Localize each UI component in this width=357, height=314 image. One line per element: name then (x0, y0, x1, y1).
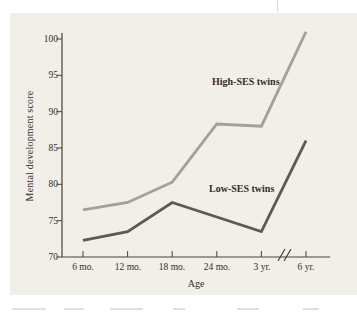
x-tick-label-18mo: 18 mo. (159, 262, 185, 273)
x-tick-label-3yr: 3 yr. (254, 262, 271, 273)
cropped-caption-fragment (10, 307, 350, 313)
x-tick-label-24mo: 24 mo. (204, 262, 230, 273)
y-tick-label-80: 80 (49, 179, 59, 190)
x-tick-label-12mo: 12 mo. (115, 262, 141, 273)
y-tick-label-90: 90 (49, 107, 59, 118)
series-label-high-ses: High-SES twins (212, 76, 280, 87)
y-tick-label-85: 85 (49, 143, 59, 154)
y-tick-label-75: 75 (49, 216, 59, 227)
x-tick-label-6mo: 6 mo. (72, 262, 94, 273)
x-tick-label-6yr: 6 yr. (298, 262, 315, 273)
y-axis-title: Mental development score (24, 91, 35, 202)
y-tick-label-70: 70 (49, 252, 59, 263)
series-label-low-ses: Low-SES twins (209, 183, 274, 194)
y-tick-label-100: 100 (44, 34, 58, 45)
x-axis-title: Age (188, 278, 205, 289)
y-tick-label-95: 95 (49, 70, 59, 81)
